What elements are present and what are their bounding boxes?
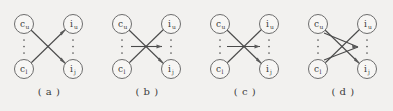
node-iu-sub: u (270, 23, 274, 30)
node-iu-sub: u (74, 23, 78, 30)
node-cu[interactable]: c u (15, 15, 34, 34)
node-iu-base: i (70, 19, 73, 29)
node-cl[interactable]: c l (211, 60, 230, 79)
panel-c: c u c l i u i j ( (196, 0, 294, 111)
node-iu[interactable]: i u (358, 15, 377, 34)
panel-d-ellipsis-right (366, 39, 368, 54)
panel-a-caption: ( a ) (0, 86, 98, 97)
panel-b: c u c l i u i j ( (98, 0, 196, 111)
node-ij-base: i (70, 64, 73, 74)
node-iu-sub: u (368, 23, 372, 30)
node-iu[interactable]: i u (162, 15, 181, 34)
node-iu-base: i (364, 19, 367, 29)
node-ij-sub: j (269, 68, 272, 76)
node-iu[interactable]: i u (64, 15, 83, 34)
panel-c-ellipsis-right (268, 39, 270, 54)
panel-c-mid-arrow (227, 45, 260, 49)
node-ij-base: i (266, 64, 269, 74)
panel-c-caption: ( c ) (196, 86, 294, 97)
node-cu[interactable]: c u (211, 15, 230, 34)
node-cl[interactable]: c l (15, 60, 34, 79)
node-cu-base: c (314, 19, 319, 29)
node-ij[interactable]: i j (358, 60, 377, 79)
panel-b-caption: ( b ) (98, 86, 196, 97)
panel-c-ellipsis-left (219, 39, 221, 54)
node-cl-base: c (314, 64, 319, 74)
node-cu-sub: u (320, 23, 324, 30)
panel-b-canvas: c u c l i u i j (98, 0, 196, 88)
panel-b-mid-arrow (131, 45, 162, 49)
node-cl-sub: l (320, 68, 322, 75)
node-ij[interactable]: i j (162, 60, 181, 79)
node-cl-sub: l (222, 68, 224, 75)
panel-c-canvas: c u c l i u i j (196, 0, 294, 88)
node-ij-base: i (364, 64, 367, 74)
node-iu[interactable]: i u (260, 15, 279, 34)
diamond-lower (324, 47, 358, 60)
node-cu-base: c (216, 19, 221, 29)
node-cu[interactable]: c u (113, 15, 132, 34)
node-cl-sub: l (26, 68, 28, 75)
node-ij-sub: j (367, 68, 370, 76)
panel-a: c u c l i u i j ( (0, 0, 98, 111)
node-cl[interactable]: c l (113, 60, 132, 79)
node-cu[interactable]: c u (309, 15, 328, 34)
node-cu-base: c (118, 19, 123, 29)
panel-d-ellipsis-left (317, 39, 319, 54)
panel-d: c u c l i u i j ( (294, 0, 392, 111)
panel-b-ellipsis-left (121, 39, 123, 54)
node-iu-base: i (266, 19, 269, 29)
node-cu-base: c (20, 19, 25, 29)
panel-a-ellipsis-left (23, 39, 25, 54)
node-cl-base: c (118, 64, 123, 74)
node-ij-base: i (168, 64, 171, 74)
node-cl-sub: l (124, 68, 126, 75)
panel-d-caption: ( d ) (294, 86, 392, 97)
node-cu-sub: u (26, 23, 30, 30)
panel-b-ellipsis-right (170, 39, 172, 54)
node-iu-base: i (168, 19, 171, 29)
node-ij[interactable]: i j (64, 60, 83, 79)
panel-a-canvas: c u c l i u i j (0, 0, 98, 88)
panel-a-edges (30, 29, 66, 64)
node-ij-sub: j (171, 68, 174, 76)
panel-a-ellipsis-right (72, 39, 74, 54)
node-cl[interactable]: c l (309, 60, 328, 79)
node-cl-base: c (216, 64, 221, 74)
node-ij[interactable]: i j (260, 60, 279, 79)
node-ij-sub: j (73, 68, 76, 76)
node-iu-sub: u (172, 23, 176, 30)
node-cu-sub: u (124, 23, 128, 30)
panel-d-canvas: c u c l i u i j (294, 0, 392, 88)
panel-d-diamond-arrows (324, 33, 358, 60)
figure-container: c u c l i u i j ( (0, 0, 393, 111)
node-cl-base: c (20, 64, 25, 74)
node-cu-sub: u (222, 23, 226, 30)
